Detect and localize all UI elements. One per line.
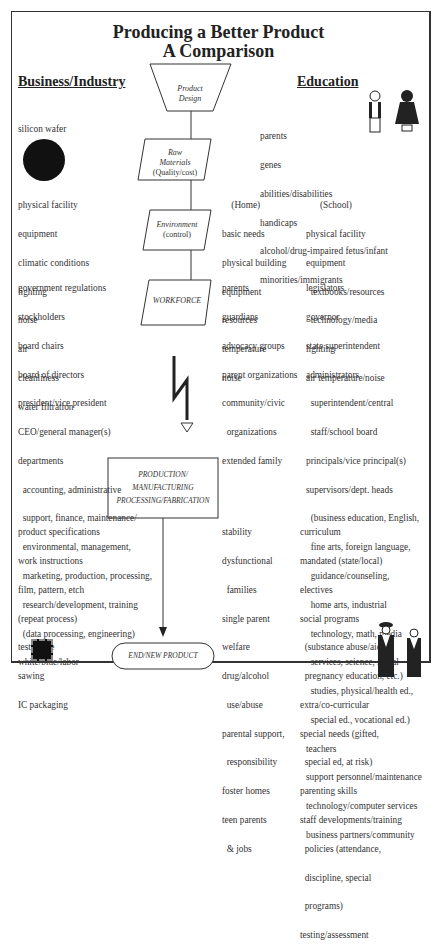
list-item: parental support, [222,730,284,740]
list-item: single parent [222,615,284,625]
list-item: (Home) [222,201,286,211]
list-item: basic needs [222,230,286,240]
list-item: legislators [306,284,422,294]
list-item: extended family [222,457,297,467]
list-item: parenting skills [300,787,403,797]
environment-label-2: (control) [145,230,209,240]
product-design-label-2: Design [165,94,215,104]
list-item: stockholders [18,313,152,323]
list-item: families [222,586,284,596]
list-item: principals/vice principal(s) [306,457,422,467]
list-item: drug/alcohol [222,672,284,682]
workforce-box: WORKFORCE [143,296,211,306]
product-design-box: Product Design [165,84,215,104]
list-item: electives [300,586,403,596]
list-item: physical facility [18,201,89,211]
list-item: organizations [222,428,297,438]
list-item: equipment [18,230,89,240]
list-item: advocacy groups [222,342,297,352]
list-item: accounting, administrative [18,486,152,496]
raw-materials-label-2: Materials [140,158,210,168]
list-item: government regulations [18,284,152,294]
education-production-school-list: curriculum mandated (state/local) electi… [300,509,403,944]
list-item: (repeat process) [18,615,100,625]
list-item: & jobs [222,845,284,855]
list-item: governor [306,313,422,323]
list-item: staff developments/training [300,816,403,826]
list-item: work instructions [18,557,100,567]
list-item: board chairs [18,342,152,352]
list-item: supervisors/dept. heads [306,486,422,496]
raw-materials-box: Raw Materials (Quality/cost) [140,148,210,178]
list-item: testing/assessment [300,931,403,941]
list-item: physical facility [306,230,385,240]
list-item: community/civic [222,399,297,409]
list-item: parents [222,284,297,294]
list-item: parent organizations [222,371,297,381]
list-item: film, pattern, etch [18,586,100,596]
list-item: policies (attendance, [300,845,403,855]
list-item: teen parents [222,816,284,826]
list-item: staff/school board [306,428,422,438]
education-workforce-home-list: parents guardians advocacy groups parent… [222,265,297,476]
list-item: welfare [222,643,284,653]
list-item: special ed, at risk) [300,758,403,768]
education-production-home-list: stability dysfunctional families single … [222,509,284,864]
list-item: responsibility [222,758,284,768]
chip-icon [31,639,53,661]
graduates-icon [374,621,429,681]
list-item: discipline, special [300,874,403,884]
list-item: curriculum [300,528,403,538]
list-item: silicon wafer [18,125,66,135]
list-item: use/abuse [222,701,284,711]
workforce-label: WORKFORCE [143,296,211,306]
environment-box: Environment (control) [145,220,209,240]
list-item: departments [18,457,152,467]
list-item: (School) [306,201,385,211]
list-item: administrators [306,371,422,381]
list-item: special needs (gifted, [300,730,403,740]
list-item: board of directors [18,371,152,381]
list-item: stability [222,528,284,538]
silicon-wafer-icon [23,139,65,181]
list-item: superintendent/central [306,399,422,409]
list-item: sawing [18,672,100,682]
children-icon [362,88,432,140]
list-item: guardians [222,313,297,323]
list-item: state superintendent [306,342,422,352]
list-item: foster homes [222,787,284,797]
list-item: extra/co-curricular [300,701,403,711]
list-item: dysfunctional [222,557,284,567]
product-design-label-1: Product [165,84,215,94]
list-item: CEO/general manager(s) [18,428,152,438]
list-item: IC packaging [18,701,100,711]
list-item: mandated (state/local) [300,557,403,567]
list-item: programs) [300,902,403,912]
raw-materials-label-3: (Quality/cost) [140,168,210,178]
business-production-list: product specifications work instructions… [18,509,100,720]
environment-label-1: Environment [145,220,209,230]
raw-materials-label-1: Raw [140,148,210,158]
list-item: genes [260,161,388,171]
list-item: product specifications [18,528,100,538]
list-item: president/vice president [18,399,152,409]
